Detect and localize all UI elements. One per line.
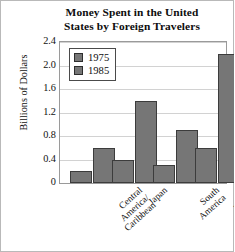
x-axis-tick-label-line: Japan xyxy=(146,185,169,207)
legend-swatch-icon xyxy=(74,66,83,75)
y-axis-tick-label: 2.4 xyxy=(4,36,56,46)
legend-item-1975: 1975 xyxy=(74,51,109,64)
y-axis-tick-label: 2.0 xyxy=(4,60,56,70)
x-axis-tick-label: WesternEurope xyxy=(231,185,234,221)
chart-title-line-1: Money Spent in the United xyxy=(37,6,227,20)
y-axis-tick-label: 1.2 xyxy=(4,107,56,117)
legend-item-1985: 1985 xyxy=(74,64,109,77)
y-axis-tick-labels: 00.40.81.21.62.02.4 xyxy=(1,41,56,184)
x-axis-tick-label: Japan xyxy=(146,185,169,207)
x-axis-tick-labels: CentralAmerica/CaribbeanJapanSouthAmeric… xyxy=(59,185,234,252)
x-axis-tick-label: CentralAmerica/Caribbean xyxy=(109,185,158,234)
legend-swatch-icon xyxy=(74,53,83,62)
bar xyxy=(218,54,235,183)
y-axis-tick-label: 1.6 xyxy=(4,83,56,93)
bar-group xyxy=(153,42,199,183)
bar xyxy=(195,148,217,183)
bar-group xyxy=(112,42,158,183)
plot-area: 19751985 xyxy=(59,41,227,184)
chart-legend: 19751985 xyxy=(69,48,116,81)
x-axis-tick-label-line: Western xyxy=(231,185,234,213)
chart-title-line-2: States by Foreign Travelers xyxy=(37,20,227,34)
bar xyxy=(153,165,175,183)
legend-label: 1985 xyxy=(88,65,109,76)
legend-label: 1975 xyxy=(88,52,109,63)
x-axis-tick-label: SouthAmerica xyxy=(190,185,228,222)
bar-group xyxy=(195,42,235,183)
chart-title: Money Spent in the United States by Fore… xyxy=(37,6,227,33)
y-axis-tick-label: 0.4 xyxy=(4,154,56,164)
bar xyxy=(112,160,134,184)
y-axis-tick-label: 0.8 xyxy=(4,130,56,140)
chart-figure: Money Spent in the United States by Fore… xyxy=(0,0,234,252)
bar xyxy=(70,171,92,183)
y-axis-tick-label: 0 xyxy=(4,177,56,187)
